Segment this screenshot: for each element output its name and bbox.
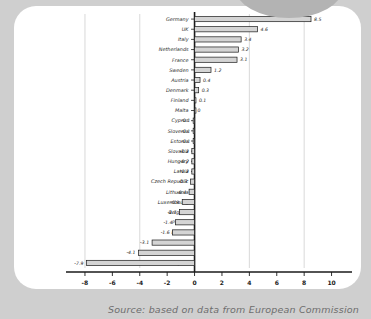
- category-label: France: [172, 57, 189, 63]
- x-tick-label: -2: [164, 279, 171, 286]
- bar: [192, 159, 195, 164]
- x-tick-label: 10: [327, 279, 335, 286]
- bar-value-label: -0.9: [170, 200, 179, 205]
- bar-value-label: 3.2: [241, 47, 248, 52]
- bar-value-label: 0.3: [202, 88, 209, 93]
- category-label: Sweden: [169, 67, 188, 73]
- bar-chart: Germany8.5UK4.6Italy3.4Netherlands3.2Fra…: [14, 6, 361, 289]
- chart-source-caption: Source: based on data from European Comm…: [0, 304, 359, 315]
- bar: [182, 199, 194, 204]
- x-tick-label: 6: [275, 279, 279, 286]
- bar-value-label: -0.1: [181, 118, 190, 123]
- bar-value-label: -0.2: [180, 169, 189, 174]
- category-label: Denmark: [166, 87, 189, 93]
- category-label: Austria: [170, 77, 188, 83]
- bar-value-label: -0.2: [180, 149, 189, 154]
- category-label: Malta: [175, 107, 189, 113]
- bar-value-label: -0.3: [178, 179, 187, 184]
- bar-value-label: -0.1: [181, 129, 190, 134]
- figure-page: Germany8.5UK4.6Italy3.4Netherlands3.2Fra…: [0, 0, 371, 319]
- x-tick-label: 4: [247, 279, 251, 286]
- bar: [195, 98, 196, 103]
- bar: [195, 67, 211, 72]
- category-label: UK: [182, 26, 190, 32]
- bar: [173, 230, 195, 235]
- bar-value-label: -0.2: [180, 159, 189, 164]
- bar-value-label: -1.4: [163, 220, 172, 225]
- x-tick-label: 2: [220, 279, 224, 286]
- bar: [195, 37, 242, 42]
- bar-value-label: -0.4: [177, 190, 186, 195]
- x-tick-label: -6: [109, 279, 116, 286]
- bar-value-label: -7.9: [74, 261, 83, 266]
- bar-value-label: -0.1: [181, 139, 190, 144]
- bar-value-label: 3.4: [244, 37, 251, 42]
- bar-value-label: -1.1: [168, 210, 177, 215]
- bar: [179, 210, 194, 215]
- bar-value-label: 0: [198, 108, 201, 113]
- bar: [195, 47, 239, 52]
- category-label: Finland: [171, 97, 190, 103]
- bar: [175, 220, 194, 225]
- bar: [193, 118, 194, 123]
- x-tick-label: 8: [302, 279, 306, 286]
- bar: [195, 27, 258, 32]
- category-label: Germany: [166, 16, 189, 23]
- x-tick-label: -4: [136, 279, 143, 286]
- bar: [195, 77, 200, 82]
- bar: [192, 149, 195, 154]
- bar-value-label: 0.1: [199, 98, 206, 103]
- bar: [195, 108, 196, 113]
- bar-value-label: 0.4: [203, 78, 210, 83]
- bar-value-label: -1.6: [161, 230, 170, 235]
- bar: [193, 138, 194, 143]
- bar: [138, 250, 194, 255]
- chart-canvas: Germany8.5UK4.6Italy3.4Netherlands3.2Fra…: [14, 6, 361, 289]
- bar-value-label: -4.1: [126, 250, 135, 255]
- bar: [193, 128, 194, 133]
- category-label: Netherlands: [159, 46, 189, 52]
- bar-value-label: -3.1: [140, 240, 149, 245]
- x-tick-label: 0: [192, 279, 196, 286]
- bar-value-label: 4.6: [261, 27, 268, 32]
- bar: [152, 240, 194, 245]
- bar-value-label: 8.5: [314, 17, 321, 22]
- bar-value-label: 3.1: [240, 57, 247, 62]
- x-tick-label: -8: [82, 279, 89, 286]
- bar: [190, 179, 194, 184]
- category-label: Italy: [178, 36, 189, 43]
- bar: [86, 260, 194, 265]
- bar-value-label: 1.2: [214, 68, 221, 73]
- bar: [189, 189, 194, 194]
- bar: [195, 88, 199, 93]
- bar: [195, 57, 237, 62]
- bar: [192, 169, 195, 174]
